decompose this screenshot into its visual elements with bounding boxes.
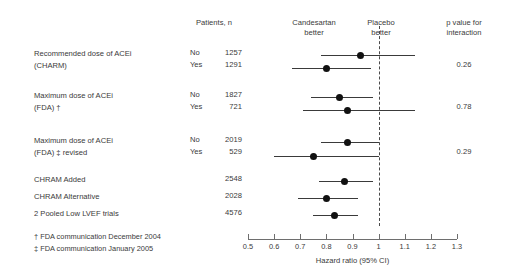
p-value-interaction: 0.78 (428, 102, 500, 111)
x-axis-tick-label: 1.1 (390, 242, 420, 251)
subgroup-label-no: No (190, 48, 200, 57)
confidence-interval-line (321, 55, 415, 56)
patients-n-value: 1291 (214, 60, 242, 69)
header-p-value-line2: interaction (428, 28, 500, 38)
x-axis-tick (353, 234, 354, 239)
confidence-interval-line (303, 110, 415, 111)
x-axis-tick (326, 234, 327, 239)
header-placebo-better-line1: Placebo (358, 18, 404, 28)
x-axis-tick (379, 234, 380, 239)
patients-n-value: 721 (214, 102, 242, 111)
group-label-recommended-dose-line1: Recommended dose of ACEi (34, 48, 132, 59)
subgroup-label-no: No (190, 135, 200, 144)
confidence-interval-line (298, 198, 358, 199)
x-axis-tick-label: 0.9 (338, 242, 368, 251)
confidence-interval-line (292, 68, 370, 69)
header-placebo-better: Placebo better (358, 18, 404, 38)
patients-n-value: 2019 (214, 135, 242, 144)
x-axis-tick (248, 234, 249, 239)
confidence-interval-line (321, 142, 378, 143)
group-label-maximum-dose-fda-line2: (FDA) † (34, 102, 61, 113)
header-candesartan-better-line1: Candesartan (283, 18, 345, 28)
x-axis-tick-label: 0.6 (259, 242, 289, 251)
group-label-chram-added: CHRAM Added (34, 174, 86, 185)
header-patients-n: Patients, n (196, 18, 232, 28)
point-estimate-marker (344, 139, 351, 146)
point-estimate-marker (310, 153, 317, 160)
x-axis-tick-label: 0.7 (285, 242, 315, 251)
x-axis-title: Hazard ratio (95% CI) (248, 256, 457, 265)
forest-plot-figure: Patients, n Candesartan better Placebo b… (0, 0, 511, 276)
header-p-value-line1: p value for (428, 18, 500, 28)
x-axis-tick (405, 234, 406, 239)
confidence-interval-line (313, 215, 357, 216)
point-estimate-marker (336, 94, 343, 101)
header-candesartan-better-line2: better (283, 28, 345, 38)
point-estimate-marker (344, 107, 351, 114)
group-label-maximum-dose-fda-line1: Maximum dose of ACEi (34, 90, 113, 101)
patients-n-value: 2548 (214, 174, 242, 183)
header-p-value-interaction: p value for interaction (428, 18, 500, 38)
footnote-double-dagger: ‡ FDA communication January 2005 (34, 244, 153, 253)
patients-n-value: 1257 (214, 48, 242, 57)
header-placebo-better-line2: better (358, 28, 404, 38)
x-axis-tick-label: 0.5 (233, 242, 263, 251)
x-axis-tick-label: 1.3 (442, 242, 472, 251)
group-label-pooled-low-lvef: 2 Pooled Low LVEF trials (34, 208, 119, 219)
x-axis-tick-label: 1 (364, 242, 394, 251)
subgroup-label-yes: Yes (190, 102, 202, 111)
group-label-chram-alternative: CHRAM Alternative (34, 191, 99, 202)
patients-n-value: 1827 (214, 90, 242, 99)
subgroup-label-yes: Yes (190, 60, 202, 69)
group-label-recommended-dose-line2: (CHARM) (34, 60, 67, 71)
group-label-maximum-dose-fda-revised-line1: Maximum dose of ACEi (34, 135, 113, 146)
x-axis-tick-label: 0.8 (311, 242, 341, 251)
point-estimate-marker (323, 65, 330, 72)
confidence-interval-line (319, 181, 374, 182)
confidence-interval-line (311, 97, 374, 98)
patients-n-value: 529 (214, 147, 242, 156)
header-candesartan-better: Candesartan better (283, 18, 345, 38)
point-estimate-marker (341, 178, 348, 185)
x-axis-line (248, 239, 457, 240)
patients-n-value: 4576 (214, 208, 242, 217)
patients-n-value: 2028 (214, 191, 242, 200)
footnote-dagger: † FDA communication December 2004 (34, 232, 161, 241)
point-estimate-marker (357, 52, 364, 59)
subgroup-label-no: No (190, 90, 200, 99)
confidence-interval-line (274, 156, 379, 157)
x-axis-tick-label: 1.2 (416, 242, 446, 251)
x-axis-tick (274, 234, 275, 239)
x-axis-tick (457, 234, 458, 239)
p-value-interaction: 0.26 (428, 60, 500, 69)
x-axis-tick (300, 234, 301, 239)
point-estimate-marker (331, 212, 338, 219)
group-label-maximum-dose-fda-revised-line2: (FDA) ‡ revised (34, 147, 87, 158)
x-axis-tick (431, 234, 432, 239)
reference-line-null-effect (379, 26, 380, 226)
p-value-interaction: 0.29 (428, 147, 500, 156)
subgroup-label-yes: Yes (190, 147, 202, 156)
point-estimate-marker (323, 195, 330, 202)
